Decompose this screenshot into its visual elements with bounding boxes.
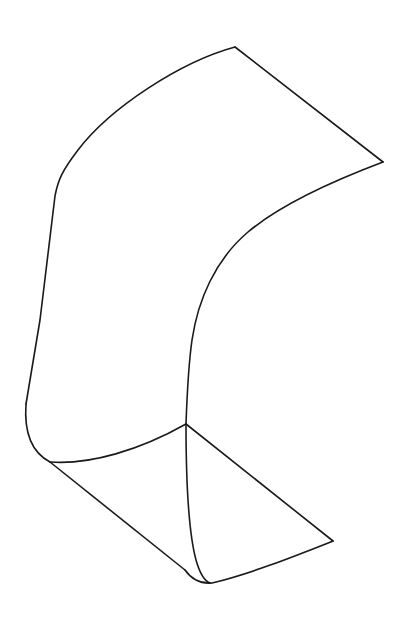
background-rect: [0, 0, 403, 617]
figure-canvas: Curved sheet surface line drawing Outlin…: [0, 0, 403, 617]
line-drawing-svg: Curved sheet surface line drawing Outlin…: [0, 0, 403, 617]
